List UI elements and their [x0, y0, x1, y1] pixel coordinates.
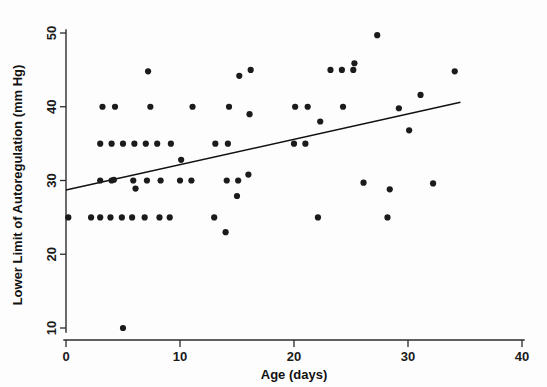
data-point	[97, 177, 103, 183]
data-point	[360, 180, 366, 186]
data-point	[417, 92, 423, 98]
data-point	[143, 141, 149, 147]
y-tick-label: 20	[44, 247, 59, 261]
data-point	[130, 177, 136, 183]
data-point	[315, 214, 321, 220]
data-point	[147, 104, 153, 110]
data-point	[350, 67, 356, 73]
chart-canvas: 1020304050 010203040 Age (days) Lower Li…	[0, 0, 547, 387]
data-point	[396, 105, 402, 111]
data-point	[88, 214, 94, 220]
x-tick-label: 20	[287, 349, 301, 364]
data-point	[430, 180, 436, 186]
regression-trend-line	[66, 102, 460, 190]
data-point	[225, 141, 231, 147]
data-point	[99, 104, 105, 110]
y-axis-tick-labels: 1020304050	[44, 26, 59, 335]
y-axis-title: Lower Limit of Autoregulation (mm Hg)	[10, 65, 25, 306]
data-point	[145, 68, 151, 74]
x-tick-label: 30	[401, 349, 415, 364]
data-point	[317, 118, 323, 124]
data-point	[142, 214, 148, 220]
y-axis-ticks	[60, 33, 66, 328]
scatter-plot-figure: 1020304050 010203040 Age (days) Lower Li…	[0, 0, 547, 387]
data-points-group	[65, 32, 458, 331]
data-point	[120, 325, 126, 331]
data-point	[234, 193, 240, 199]
data-point	[452, 68, 458, 74]
data-point	[129, 214, 135, 220]
data-point	[131, 141, 137, 147]
data-point	[384, 214, 390, 220]
data-point	[340, 104, 346, 110]
data-point	[178, 157, 184, 163]
data-point	[374, 32, 380, 38]
data-point	[223, 229, 229, 235]
data-point	[236, 73, 242, 79]
data-point	[305, 104, 311, 110]
x-axis-title: Age (days)	[261, 367, 327, 382]
data-point	[224, 177, 230, 183]
x-tick-label: 10	[173, 349, 187, 364]
data-point	[97, 141, 103, 147]
data-point	[211, 214, 217, 220]
data-point	[245, 172, 251, 178]
x-tick-label: 40	[515, 349, 529, 364]
data-point	[246, 111, 252, 117]
data-point	[167, 214, 173, 220]
data-point	[248, 67, 254, 73]
data-point	[212, 141, 218, 147]
x-axis-tick-labels: 010203040	[62, 349, 529, 364]
data-point	[292, 104, 298, 110]
data-point	[168, 141, 174, 147]
data-point	[65, 214, 71, 220]
data-point	[97, 214, 103, 220]
y-tick-label: 50	[44, 26, 59, 40]
data-point	[156, 214, 162, 220]
data-point	[291, 141, 297, 147]
data-point	[107, 214, 113, 220]
data-point	[119, 214, 125, 220]
x-axis-ticks	[66, 340, 522, 347]
data-point	[351, 60, 357, 66]
x-tick-label: 0	[62, 349, 69, 364]
data-point	[302, 141, 308, 147]
data-point	[109, 141, 115, 147]
data-point	[235, 177, 241, 183]
data-point	[327, 67, 333, 73]
data-point	[188, 177, 194, 183]
data-point	[339, 67, 345, 73]
data-point	[189, 104, 195, 110]
data-point	[226, 104, 232, 110]
data-point	[158, 177, 164, 183]
y-tick-label: 40	[44, 100, 59, 114]
data-point	[177, 177, 183, 183]
data-point	[154, 141, 160, 147]
data-point	[144, 177, 150, 183]
y-tick-label: 10	[44, 321, 59, 335]
y-tick-label: 30	[44, 173, 59, 187]
data-point	[387, 186, 393, 192]
data-point	[111, 177, 117, 183]
data-point	[406, 127, 412, 133]
data-point	[120, 141, 126, 147]
data-point	[112, 104, 118, 110]
data-point	[132, 186, 138, 192]
